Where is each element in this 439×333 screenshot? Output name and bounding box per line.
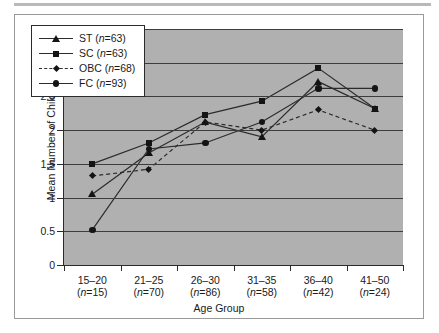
legend-label-sc: SC (n=63) [79,48,127,59]
legend-marker-diamond-icon [39,63,73,75]
data-point-st-15–20 [88,190,96,197]
x-axis-tick-count: (n=24) [339,286,411,298]
y-axis-tick-mark [57,164,64,165]
data-point-sc-36–40 [315,65,321,71]
data-point-fc-15–20 [89,227,96,234]
legend-label-obc: OBC (n=68) [79,63,135,74]
y-axis-tick-label: 0.5 [15,226,55,237]
series-line-obc [92,110,375,176]
legend-item-fc: FC (n=93) [39,76,135,91]
y-axis-tick-label: 1 [15,193,55,204]
x-axis-tick-mark [177,265,178,271]
data-point-sc-26–30 [202,112,208,118]
legend-marker-triangle-icon [39,33,73,45]
y-axis-tick-label: 1.5 [15,159,55,170]
legend-marker-square-icon [39,48,73,60]
gridline [64,130,403,131]
legend-label-st: ST (n=63) [79,33,126,44]
data-point-st-31–35 [258,133,266,140]
gridline [64,231,403,232]
data-point-fc-36–40 [315,85,322,92]
data-point-sc-15–20 [89,161,95,167]
y-axis-tick-label: 0 [15,260,55,271]
y-axis-tick-mark [57,130,64,131]
x-axis-tick-mark [290,265,291,271]
series-line-fc [92,88,375,230]
data-point-fc-41–50 [372,85,379,92]
legend-label-fc: FC (n=93) [79,78,127,89]
x-axis-tick-range: 41–50 [339,274,411,286]
series-line-st [92,82,375,195]
top-rule [14,3,431,6]
x-axis-tick-mark [121,265,122,271]
gridline [64,198,403,199]
y-axis-tick-label: 2 [15,125,55,136]
x-axis-tick-mark [403,265,404,271]
legend-item-sc: SC (n=63) [39,46,135,61]
chart-frame: Mean Number of Children 00.511.522.533.5… [14,14,424,319]
data-point-sc-31–35 [259,98,265,104]
legend: ST (n=63)SC (n=63)OBC (n=68)FC (n=93) [31,25,145,97]
legend-marker-circle-icon [39,78,73,90]
data-point-st-36–40 [314,78,322,85]
x-axis-tick-mark [347,265,348,271]
data-point-fc-26–30 [202,140,209,147]
x-axis-tick-label: 41–50(n=24) [339,274,411,298]
legend-item-st: ST (n=63) [39,31,135,46]
gridline [64,164,403,165]
y-axis-tick-mark [57,231,64,232]
figure: Mean Number of Children 00.511.522.533.5… [0,0,439,333]
data-point-sc-41–50 [372,106,378,112]
y-axis-tick-mark [57,265,64,266]
x-axis-tick-mark [234,265,235,271]
x-axis-tick-mark [64,265,65,271]
x-axis-title: Age Group [15,302,423,314]
legend-item-obc: OBC (n=68) [39,61,135,76]
y-axis-tick-mark [57,198,64,199]
